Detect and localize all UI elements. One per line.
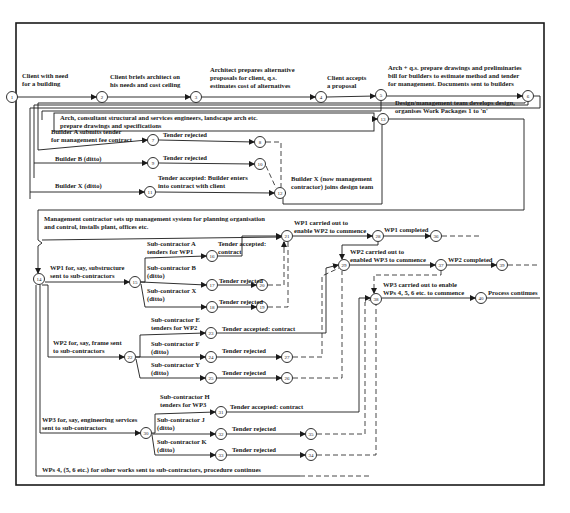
- label-sub-y-rejected: Tender rejected: [222, 369, 266, 376]
- label-builder-x: Builder X (ditto): [55, 182, 102, 190]
- label-consultants: Arch, consultant structural and services…: [60, 114, 258, 129]
- label-wp3-carried: WP3 carried out to enableWPs 4, 5, 6 etc…: [383, 281, 464, 296]
- svg-text:22: 22: [128, 355, 134, 360]
- label-sub-j-rejected: Tender rejected: [232, 425, 276, 432]
- label-sub-y: Sub-contractor Y(ditto): [151, 361, 200, 377]
- svg-text:38: 38: [374, 297, 380, 302]
- node-17a: 17: [207, 280, 218, 291]
- node-2: 2: [97, 92, 108, 103]
- label-builder-a-rejected: Tender rejected: [163, 131, 207, 138]
- node-37: 37: [436, 260, 447, 271]
- node-23: 23: [206, 328, 217, 339]
- node-6: 6: [523, 91, 534, 102]
- svg-text:25: 25: [209, 376, 215, 381]
- label-sub-f: Sub-contractor F(ditto): [151, 340, 199, 356]
- node-13: 13: [378, 114, 389, 125]
- node-27: 27: [282, 352, 293, 363]
- node-14: 14: [34, 274, 45, 285]
- node-31: 31: [216, 407, 227, 418]
- node-16: 16: [207, 251, 218, 262]
- label-management-system: Management contractor sets up management…: [44, 215, 265, 230]
- svg-text:35: 35: [309, 432, 315, 437]
- node-22: 22: [125, 352, 136, 363]
- label-wp3-sent: WP3 for, say, engineering servicessent t…: [42, 416, 138, 431]
- label-wp2-completed: WP2 completed: [448, 256, 493, 263]
- node-34: 34: [306, 450, 317, 461]
- label-sub-e: Sub-contractor Etenders for WP2: [151, 316, 200, 331]
- node-9: 9: [148, 158, 159, 169]
- svg-text:21: 21: [285, 234, 291, 239]
- svg-text:27: 27: [285, 355, 291, 360]
- label-sub-h-accepted: Tender accepted: contract: [230, 403, 304, 410]
- svg-text:16: 16: [210, 254, 216, 259]
- label-sub-x-rejected: Tender rejected: [219, 298, 263, 305]
- node-8: 8: [255, 137, 266, 148]
- node-1: 1: [7, 92, 18, 103]
- node-36: 36: [431, 231, 442, 242]
- svg-text:17: 17: [210, 283, 216, 288]
- label-builder-b-rejected: Tender rejected: [163, 154, 207, 161]
- svg-text:14: 14: [37, 277, 43, 282]
- svg-text:33: 33: [219, 453, 225, 458]
- node-38: 38: [371, 294, 382, 305]
- label-builder-b: Builder B (ditto): [55, 155, 101, 163]
- label-sub-f-rejected: Tender rejected: [222, 347, 266, 354]
- label-process-continues: Process continues: [488, 289, 538, 296]
- svg-text:10: 10: [258, 162, 264, 167]
- node-26: 26: [282, 373, 293, 384]
- svg-text:24: 24: [209, 355, 215, 360]
- node-25: 25: [206, 373, 217, 384]
- label-design-team: Design/management team develops design,o…: [395, 99, 515, 114]
- svg-text:23: 23: [209, 331, 215, 336]
- label-builder-x-joins: Builder X (now managementcontractor) joi…: [291, 175, 374, 191]
- node-10: 10: [255, 159, 266, 170]
- label-client-accepts: Client acceptsa proposal: [327, 74, 367, 89]
- node-39: 39: [497, 260, 508, 271]
- svg-text:12: 12: [278, 191, 284, 196]
- label-builder-a: Builder A submits tenderfor management f…: [51, 128, 133, 143]
- svg-text:39: 39: [500, 263, 506, 268]
- svg-text:26: 26: [285, 376, 291, 381]
- label-sub-b: Sub-contractor B(ditto): [147, 264, 196, 280]
- node-21: 21: [282, 231, 293, 242]
- label-wp1-sent: WP1 for, say, substructuresent to sub-co…: [50, 264, 125, 279]
- node-5: 5: [376, 90, 387, 101]
- label-architect-prepares: Architect prepares alternativeproposals …: [210, 66, 295, 89]
- label-wp2-carried: WP2 carried out toenabled WP3 to commenc…: [350, 248, 426, 263]
- node-40: 40: [476, 293, 487, 304]
- svg-text:40: 40: [479, 296, 485, 301]
- svg-text:30: 30: [144, 431, 150, 436]
- node-11: 11: [145, 187, 156, 198]
- label-wp1-carried: WP1 carried out toenable WP2 to commence: [294, 219, 366, 234]
- label-client-briefs: Client briefs architect onhis needs and …: [110, 73, 181, 88]
- label-builder-x-accepted: Tender accepted: Builder entersinto cont…: [158, 174, 248, 189]
- label-sub-k-rejected: Tender rejected: [232, 446, 276, 453]
- label-sub-j: Sub-contractor J(ditto): [157, 416, 205, 432]
- svg-text:28: 28: [376, 234, 382, 239]
- node-29: 29: [339, 260, 350, 271]
- svg-text:31: 31: [219, 410, 225, 415]
- svg-text:36: 36: [434, 234, 440, 239]
- svg-text:29: 29: [342, 263, 348, 268]
- node-12: 12: [275, 188, 286, 199]
- label-sub-a: Sub-contractor Atenders for WP1: [147, 240, 196, 255]
- node-24: 24: [206, 352, 217, 363]
- node-28: 28: [373, 231, 384, 242]
- svg-text:13: 13: [381, 117, 387, 122]
- svg-text:11: 11: [148, 190, 153, 195]
- node-7: 7: [148, 135, 159, 146]
- svg-text:32: 32: [219, 432, 225, 437]
- node-18: 18: [207, 302, 218, 313]
- node-15: 15: [130, 277, 141, 288]
- svg-text:34: 34: [309, 453, 315, 458]
- svg-text:19: 19: [260, 305, 266, 310]
- label-arch-qs: Arch + q.s. prepare drawings and prelimi…: [388, 64, 522, 87]
- label-sub-k: Sub-contractor K(ditto): [157, 438, 207, 454]
- label-wps-continue: WPs 4, (5, 6 etc.) for other works sent …: [42, 466, 261, 474]
- node-4: 4: [316, 92, 327, 103]
- svg-text:37: 37: [439, 263, 445, 268]
- label-wp2-sent: WP2 for, say, frame sentto sub-contracto…: [53, 339, 122, 354]
- node-33: 33: [216, 450, 227, 461]
- node-30: 30: [141, 428, 152, 439]
- svg-text:18: 18: [210, 305, 216, 310]
